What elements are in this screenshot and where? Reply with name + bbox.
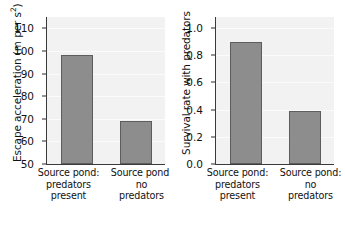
x-axis-category-label-line: predators <box>274 190 345 202</box>
x-axis-category-label: Source pond:nopredators <box>274 167 345 202</box>
x-axis-category-label-line: no <box>274 179 345 191</box>
x-axis-category-label: Source pond:predatorspresent <box>201 167 274 202</box>
y-tick-label: 110 <box>14 22 34 34</box>
x-axis-category-label: Source pond:nopredators <box>105 167 178 202</box>
x-axis-category-label-line: present <box>201 190 274 202</box>
chart-panel-escape-acceleration: Escape acceleration (m per s2) 506070809… <box>0 0 169 226</box>
y-tick-label: 80 <box>21 90 34 102</box>
gridline <box>47 51 165 52</box>
bar <box>120 121 152 164</box>
bar <box>230 42 262 165</box>
x-axis-labels-right: Source pond:predatorspresentSource pond:… <box>201 167 345 202</box>
x-axis-category-label-line: Source pond: <box>32 167 105 179</box>
x-axis-category-label-line: predators <box>105 190 178 202</box>
x-axis-category-label-line: predators <box>201 179 274 191</box>
x-axis-category-label-line: predators <box>32 179 105 191</box>
bar <box>289 111 321 164</box>
y-tick-label: 60 <box>21 135 34 147</box>
y-tick-label: 90 <box>21 68 34 80</box>
y-tick-label: 0.2 <box>186 131 203 143</box>
x-axis-category-label-line: Source pond: <box>201 167 274 179</box>
y-tick-label: 100 <box>14 45 34 57</box>
x-axis-category-label-line: present <box>32 190 105 202</box>
plot-area-left <box>46 17 165 165</box>
y-tick-label: 0.4 <box>186 104 203 116</box>
gridline <box>216 28 334 29</box>
gridline <box>47 28 165 29</box>
y-tick-label: 70 <box>21 113 34 125</box>
y-tick-label: 0.6 <box>186 76 203 88</box>
y-tick-label: 1.0 <box>186 22 203 34</box>
plot-inner-right <box>216 17 334 164</box>
x-axis-category-label-line: Source pond: <box>105 167 178 179</box>
plot-area-right <box>215 17 334 165</box>
x-axis-category-label-line: Source pond: <box>274 167 345 179</box>
bar <box>61 55 93 164</box>
x-axis-category-label-line: no <box>105 179 178 191</box>
chart-panel-survival-rate: Survival rate with predators 0.00.20.40.… <box>169 0 338 226</box>
plot-inner-left <box>47 17 165 164</box>
y-tick-label: 0.8 <box>186 49 203 61</box>
x-axis-labels-left: Source pond:predatorspresentSource pond:… <box>32 167 178 202</box>
x-axis-category-label: Source pond:predatorspresent <box>32 167 105 202</box>
